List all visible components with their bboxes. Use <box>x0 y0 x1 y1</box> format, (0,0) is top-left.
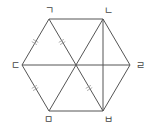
vertex-label-nieun: ㄴ <box>104 5 113 16</box>
hexagon-edge <box>103 65 130 111</box>
hexagon-diagonals <box>22 19 130 111</box>
vertex-label-digeut: ㄷ <box>11 60 20 71</box>
hexagon-edge <box>22 19 49 65</box>
vertex-label-giyeok: ㄱ <box>45 5 54 16</box>
vertex-label-bieup: ㅂ <box>104 114 113 125</box>
hexagon-diagram: ㄱ ㄴ ㄹ ㅂ ㅁ ㄷ <box>0 0 154 130</box>
vertex-label-mieum: ㅁ <box>44 114 53 125</box>
hexagon-edge <box>103 19 130 65</box>
vertex-label-rieul: ㄹ <box>136 60 145 71</box>
hexagon-edge <box>22 65 49 111</box>
